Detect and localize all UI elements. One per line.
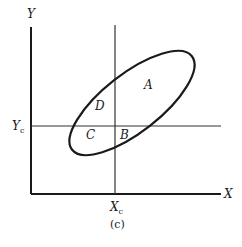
y-threshold-label-subscript: c	[20, 126, 25, 135]
region-label-b: B	[119, 128, 129, 142]
region-label-d: D	[94, 99, 105, 113]
y-axis-label: Y	[27, 7, 36, 21]
x-threshold-label-main: X	[109, 200, 119, 214]
data-ellipse	[54, 33, 209, 172]
x-threshold-label: Xc	[109, 200, 124, 216]
x-axis-label: X	[223, 187, 233, 201]
region-label-a: A	[143, 78, 153, 92]
y-threshold-label: Yc	[12, 119, 25, 135]
scatter-quadrant-diagram: Y X Yc Xc A B C D (c)	[0, 0, 242, 247]
figure-caption: (c)	[110, 218, 125, 231]
x-threshold-label-subscript: c	[119, 207, 124, 216]
region-label-c: C	[86, 128, 95, 142]
